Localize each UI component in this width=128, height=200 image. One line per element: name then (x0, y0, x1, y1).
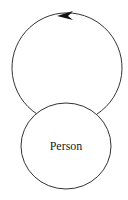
arrowhead-icon (57, 11, 73, 20)
diagram-canvas: Person (0, 0, 128, 200)
node-label: Person (50, 139, 83, 153)
self-loop-edge (12, 11, 122, 114)
node-person: Person (21, 103, 111, 189)
